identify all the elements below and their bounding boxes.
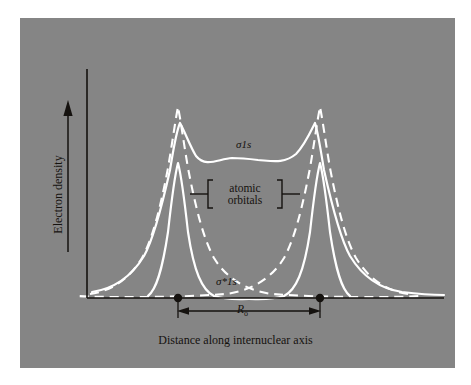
bond-length-label: Ro <box>237 303 248 319</box>
bond-length-arrowhead-left <box>177 307 189 315</box>
y-axis-label: Electron density <box>51 130 66 260</box>
atomic-orbitals-label-line1: atomic <box>214 182 276 194</box>
bond-length-label-subscript: o <box>244 309 248 318</box>
x-axis-label: Distance along internuclear axis <box>0 334 471 347</box>
sigma-star-1s-label: σ*1s <box>216 276 237 288</box>
bond-length-arrowhead-right <box>309 307 321 315</box>
sigma-1s-curve-group <box>92 123 444 295</box>
sigma-1s-label: σ1s <box>236 139 251 151</box>
atomic-orbitals-label-line2: orbitals <box>214 194 276 206</box>
bond-length-arrow <box>177 298 321 318</box>
sigma-1s-bonding-curve <box>92 123 444 295</box>
atomic-orbitals-bracket-right <box>277 180 282 208</box>
figure-root: σ1s σ*1s atomic orbitals Ro Distance alo… <box>0 0 471 385</box>
bond-length-label-symbol: R <box>237 303 244 315</box>
atomic-orbitals-label: atomic orbitals <box>214 182 276 206</box>
atomic-orbitals-bracket-left <box>208 180 213 208</box>
